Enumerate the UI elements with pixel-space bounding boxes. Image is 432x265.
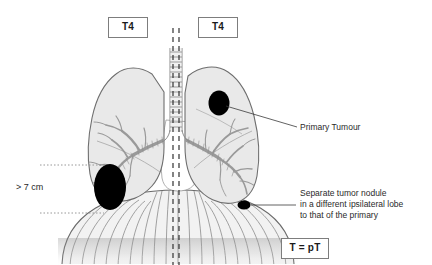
stage-label-t4-right: T4: [198, 17, 238, 38]
right-lung: [185, 67, 259, 203]
primary-tumour-lesion: [209, 91, 230, 116]
lung-diagram: [0, 0, 432, 265]
annotation-size-measurement: > 7 cm: [16, 182, 43, 193]
classification-label-t-equals-pt: T = pT: [281, 238, 329, 259]
annotation-primary-tumour: Primary Tumour: [300, 122, 360, 133]
annotation-separate-nodule: Separate tumor nodule in a different ips…: [300, 188, 403, 221]
diaphragm: [58, 190, 298, 265]
satellite-nodule-lesion: [238, 201, 251, 210]
diagram-canvas: T4 T4 T = pT Primary Tumour Separate tum…: [0, 0, 432, 265]
stage-label-t4-left: T4: [108, 17, 148, 38]
large-tumour-lesion: [94, 164, 126, 210]
